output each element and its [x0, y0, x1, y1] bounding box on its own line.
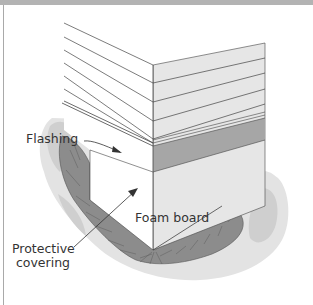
label-protective-covering: Protective covering	[12, 242, 74, 270]
label-flashing: Flashing	[26, 132, 78, 146]
label-foam-board: Foam board	[135, 211, 209, 225]
label-protective-covering-line2: covering	[12, 256, 74, 270]
diagram-frame: Flashing Foam board Protective covering	[0, 0, 313, 305]
label-protective-covering-line1: Protective	[12, 242, 74, 256]
